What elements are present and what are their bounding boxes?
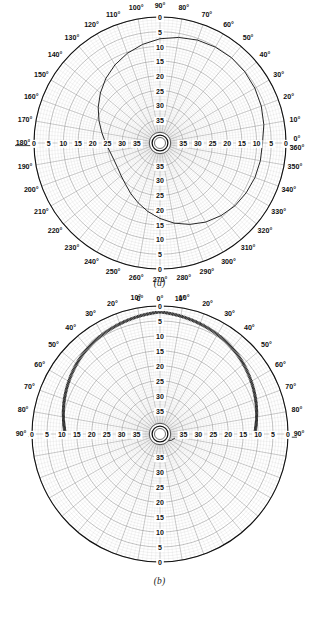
radial-label-bottom: 15	[156, 514, 164, 521]
radial-label-left: 35	[133, 431, 141, 438]
angle-label-left: 30°	[85, 310, 96, 318]
radial-label-left: 25	[104, 140, 112, 147]
angle-label: 220°	[48, 227, 63, 235]
radial-label-right: 20	[223, 140, 231, 147]
radial-label-top: 10	[156, 333, 164, 340]
radial-label-top: 5	[158, 318, 162, 325]
grid-spoke-minor	[167, 439, 268, 502]
angle-label: 260°	[129, 274, 144, 282]
grid-spoke-major	[164, 323, 224, 426]
radial-label-left: 5	[45, 431, 49, 438]
radial-label-right: 10	[253, 140, 261, 147]
center-hub	[149, 132, 170, 153]
chart-a-svg: 0°10°20°30°40°50°60°70°80°90°100°110°120…	[0, 0, 319, 282]
radial-label-top: 25	[156, 378, 164, 385]
radial-label-top: 10	[156, 44, 164, 51]
angle-label: 80°	[178, 4, 189, 12]
angle-label: 350°	[288, 163, 303, 171]
radial-label-left: 35	[133, 140, 141, 147]
angle-label: 250°	[106, 268, 121, 276]
angle-label: 110°	[106, 11, 120, 19]
angle-label-left: 70°	[24, 383, 35, 391]
grid-spoke-minor	[167, 366, 268, 429]
radial-label-right: 15	[239, 431, 247, 438]
grid-spoke-major	[167, 438, 270, 498]
radial-label-bottom: 30	[156, 469, 164, 476]
grid-spoke-minor	[51, 439, 152, 502]
grid-spoke-major	[49, 438, 152, 498]
angle-label-left: 60°	[34, 361, 45, 369]
angle-label: 130°	[65, 34, 80, 42]
angle-label-right: 80°	[292, 406, 303, 414]
angle-label: 200°	[24, 186, 39, 194]
angle-label: 10°	[290, 116, 301, 124]
grid-spoke-minor	[65, 440, 154, 520]
grid-spoke-minor	[166, 149, 253, 228]
angle-label: 210°	[34, 208, 49, 216]
grid-spoke-minor	[165, 44, 237, 137]
grid-spoke-minor	[92, 325, 155, 426]
grid-spoke-minor	[74, 440, 154, 529]
angle-label: 70°	[201, 11, 212, 19]
radial-label-left: 0	[32, 140, 36, 147]
grid-spoke-minor	[51, 366, 152, 429]
grid-spoke-minor	[166, 440, 246, 529]
radial-label-top: 35	[156, 117, 164, 124]
radial-label-left: 15	[74, 140, 82, 147]
radial-label-bottom: 25	[156, 484, 164, 491]
angle-label: 270°	[153, 276, 168, 282]
angle-label: 160°	[24, 93, 39, 101]
grid-spoke-minor	[61, 148, 154, 220]
angle-label-right: 60°	[275, 361, 286, 369]
angle-label-left: 20°	[107, 300, 118, 308]
radial-label-top: 35	[156, 408, 164, 415]
radial-label-bottom: 25	[156, 192, 164, 199]
angle-label-left: 40°	[65, 324, 76, 332]
radial-label-top: 0	[158, 303, 162, 310]
radial-label-right: 20	[224, 431, 232, 438]
grid-spoke-minor	[165, 441, 228, 542]
grid-spoke-minor	[82, 150, 154, 243]
radial-label-right: 25	[209, 431, 217, 438]
radial-label-bottom: 5	[158, 251, 162, 258]
angle-label: 100°	[129, 4, 144, 12]
grid-spoke-minor	[74, 339, 154, 428]
angle-label: 240°	[84, 258, 99, 266]
radial-label-right: 5	[269, 140, 273, 147]
radial-label-left: 30	[118, 431, 126, 438]
radial-label-bottom: 35	[156, 454, 164, 461]
angle-label: 30°	[273, 71, 284, 79]
angle-label-0-left: 0°	[137, 295, 144, 303]
angle-label: 300°	[221, 258, 236, 266]
angle-label: 120°	[84, 21, 99, 29]
angle-label-right: 20°	[202, 300, 213, 308]
radial-label-left: 5	[47, 140, 51, 147]
angle-label-left: 90°	[16, 430, 27, 438]
grid-spoke-minor	[76, 49, 155, 136]
radial-label-bottom: 35	[156, 163, 164, 170]
radial-label-bottom: 0	[158, 559, 162, 566]
radial-label-left: 30	[118, 140, 126, 147]
radial-label-top: 30	[156, 102, 164, 109]
radial-label-top: 25	[156, 88, 164, 95]
radial-label-right: 15	[238, 140, 246, 147]
radial-label-bottom: 10	[156, 236, 164, 243]
radial-label-top: 0	[158, 14, 162, 21]
angle-label: 90°	[155, 2, 166, 10]
angle-label: 180°	[16, 139, 31, 147]
angle-label: 320°	[258, 227, 273, 235]
angle-label-10-right: 10°	[175, 295, 186, 303]
radial-label-top: 30	[156, 393, 164, 400]
chart-b-container: 0°10°10°20°20°30°30°40°40°50°50°60°60°70…	[0, 288, 319, 578]
angle-label: 290°	[200, 268, 215, 276]
radial-label-top: 20	[156, 73, 164, 80]
angle-label-left: 80°	[18, 406, 29, 414]
angle-label-right: 50°	[261, 341, 272, 349]
radial-label-right: 0	[286, 431, 290, 438]
angle-label-0: 0°	[157, 295, 164, 303]
radial-label-right: 10	[254, 431, 262, 438]
angle-label: 340°	[281, 186, 296, 194]
radial-label-top: 5	[158, 29, 162, 36]
radial-label-right: 35	[180, 431, 188, 438]
angle-label: 280°	[176, 274, 191, 282]
